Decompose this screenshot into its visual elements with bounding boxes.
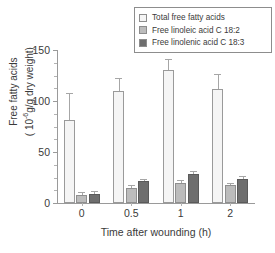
error-cap-total-0 xyxy=(66,93,73,94)
legend-swatch-linolenic xyxy=(139,39,147,47)
y-axis-line xyxy=(57,50,58,203)
bar-group-2 xyxy=(212,50,248,203)
bar-total-0 xyxy=(64,120,75,203)
y-tick-minor xyxy=(54,63,57,64)
y-tick-0: 0 xyxy=(53,203,57,204)
plot-area: 050100150 00.512 xyxy=(57,50,255,203)
y-tick-minor xyxy=(54,114,57,115)
bar-linolenic-0.5 xyxy=(138,181,149,203)
x-tick-label-1: 1 xyxy=(178,207,184,219)
error-cap-linoleic-1 xyxy=(177,180,184,181)
y-tick-minor xyxy=(54,76,57,77)
legend-label-linolenic: Free linolenic acid C 18:3 xyxy=(152,38,244,47)
y-tick-50: 50 xyxy=(53,152,57,153)
y-tick-minor xyxy=(54,178,57,179)
error-cap-linolenic-0.5 xyxy=(140,179,147,180)
error-cap-linoleic-0.5 xyxy=(128,185,135,186)
x-tick-label-0: 0 xyxy=(79,207,85,219)
y-tick-minor xyxy=(54,139,57,140)
error-cap-total-1 xyxy=(165,59,172,60)
legend-item-total: Total free fatty acids xyxy=(139,12,266,24)
bar-linolenic-2 xyxy=(237,179,248,203)
y-tick-100: 100 xyxy=(53,101,57,102)
error-cap-linoleic-0 xyxy=(78,192,85,193)
error-cap-linolenic-1 xyxy=(190,171,197,172)
bar-linolenic-0 xyxy=(89,194,100,203)
error-bar-total-0.5 xyxy=(119,78,120,91)
error-cap-linolenic-0 xyxy=(91,191,98,192)
y-axis-exponent: -6 xyxy=(22,113,29,119)
error-cap-linoleic-2 xyxy=(227,183,234,184)
error-bar-total-1 xyxy=(168,59,169,70)
bar-linolenic-1 xyxy=(188,174,199,203)
bar-linoleic-2 xyxy=(225,185,236,203)
error-bar-total-0 xyxy=(69,93,70,121)
bar-linoleic-0 xyxy=(76,195,87,203)
x-tick-label-0.5: 0.5 xyxy=(124,207,139,219)
x-axis-line xyxy=(57,203,255,204)
x-tick-label-2: 2 xyxy=(227,207,233,219)
bar-chart-figure: Total free fatty acids Free linoleic aci… xyxy=(0,0,275,253)
error-cap-total-2 xyxy=(214,74,221,75)
y-tick-minor xyxy=(54,190,57,191)
legend-item-linolenic: Free linolenic acid C 18:3 xyxy=(139,37,266,49)
legend-swatch-total xyxy=(139,14,147,22)
legend-label-total: Total free fatty acids xyxy=(152,13,225,22)
bar-total-1 xyxy=(163,70,174,203)
x-tick-1 xyxy=(181,203,182,206)
error-bar-total-2 xyxy=(218,74,219,88)
y-tick-label-50: 50 xyxy=(38,146,50,158)
chart-legend: Total free fatty acids Free linoleic aci… xyxy=(134,7,272,53)
bar-group-0 xyxy=(64,50,100,203)
y-tick-150: 150 xyxy=(53,50,57,51)
legend-label-linoleic: Free linoleic acid C 18:2 xyxy=(152,26,240,35)
bar-group-1 xyxy=(163,50,199,203)
x-tick-0.5 xyxy=(131,203,132,206)
x-axis-title: Time after wounding (h) xyxy=(57,226,255,238)
y-tick-minor xyxy=(54,165,57,166)
y-tick-minor xyxy=(54,88,57,89)
bar-linoleic-1 xyxy=(175,183,186,203)
y-axis-title-line1: Free fatty acids xyxy=(8,57,19,125)
legend-item-linoleic: Free linoleic acid C 18:2 xyxy=(139,24,266,36)
y-axis-title-line2: ( 10-6g/g dry weight) xyxy=(20,32,35,152)
bar-linoleic-0.5 xyxy=(126,188,137,203)
y-axis-title: Free fatty acids ( 10-6g/g dry weight) xyxy=(8,32,35,152)
x-tick-0 xyxy=(82,203,83,206)
y-tick-label-0: 0 xyxy=(44,197,50,209)
legend-swatch-linoleic xyxy=(139,26,147,34)
bar-group-0.5 xyxy=(113,50,149,203)
x-tick-2 xyxy=(230,203,231,206)
error-cap-linolenic-2 xyxy=(239,176,246,177)
bar-total-0.5 xyxy=(113,91,124,203)
error-cap-total-0.5 xyxy=(115,78,122,79)
bar-total-2 xyxy=(212,89,223,203)
y-tick-minor xyxy=(54,127,57,128)
